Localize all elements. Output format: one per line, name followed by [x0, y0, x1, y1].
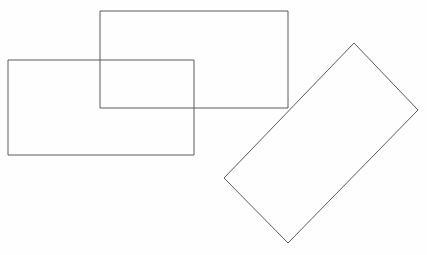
- canvas-background: [0, 0, 427, 255]
- rectangles-figure: [0, 0, 427, 255]
- figure-canvas: [0, 0, 427, 255]
